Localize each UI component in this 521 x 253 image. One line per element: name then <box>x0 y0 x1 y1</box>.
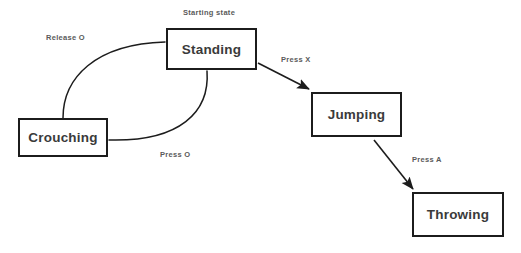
edge-label-press-x: Press X <box>281 55 311 64</box>
edge-label-press-o: Press O <box>160 150 190 159</box>
state-node-jumping[interactable]: Jumping <box>311 92 402 137</box>
state-node-throwing[interactable]: Throwing <box>412 192 504 237</box>
edge-standing-to-jumping <box>258 63 309 89</box>
state-node-label: Jumping <box>328 107 386 122</box>
state-node-label: Standing <box>182 42 241 57</box>
edge-standing-to-crouching <box>109 71 207 140</box>
edge-jumping-to-throwing <box>374 140 413 189</box>
edge-label-release-o: Release O <box>46 33 85 42</box>
edge-label-press-a: Press A <box>412 155 442 164</box>
annotation-starting-state: Starting state <box>183 8 235 17</box>
state-diagram-canvas: Standing Crouching Jumping Throwing Star… <box>0 0 521 253</box>
state-node-label: Crouching <box>28 130 97 145</box>
edge-crouching-to-standing <box>63 42 165 118</box>
state-node-crouching[interactable]: Crouching <box>18 118 108 157</box>
state-node-label: Throwing <box>427 207 489 222</box>
state-node-standing[interactable]: Standing <box>166 28 257 70</box>
